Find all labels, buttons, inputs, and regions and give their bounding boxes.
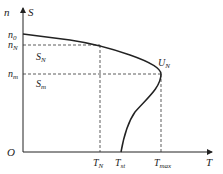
region-label-SN: SN <box>36 51 46 64</box>
point-label-UN: UN <box>158 57 170 70</box>
x-tick-Tmax: Tmax <box>154 157 172 170</box>
x-tick-Tst: Tst <box>115 157 126 170</box>
x-axis-label: T <box>206 156 213 168</box>
y-tick-nm: nm <box>8 68 18 81</box>
y-axis-label-s: S <box>28 6 34 18</box>
torque-speed-curve <box>23 34 161 152</box>
region-label-Sm: Sm <box>36 78 46 91</box>
y-axis-label-n: n <box>4 6 10 18</box>
origin-label: O <box>7 146 15 158</box>
x-tick-TN: TN <box>93 157 104 170</box>
mechanical-characteristic-diagram: n S n0 nN nm SN Sm UN O TN Tst Tmax T <box>0 0 223 174</box>
